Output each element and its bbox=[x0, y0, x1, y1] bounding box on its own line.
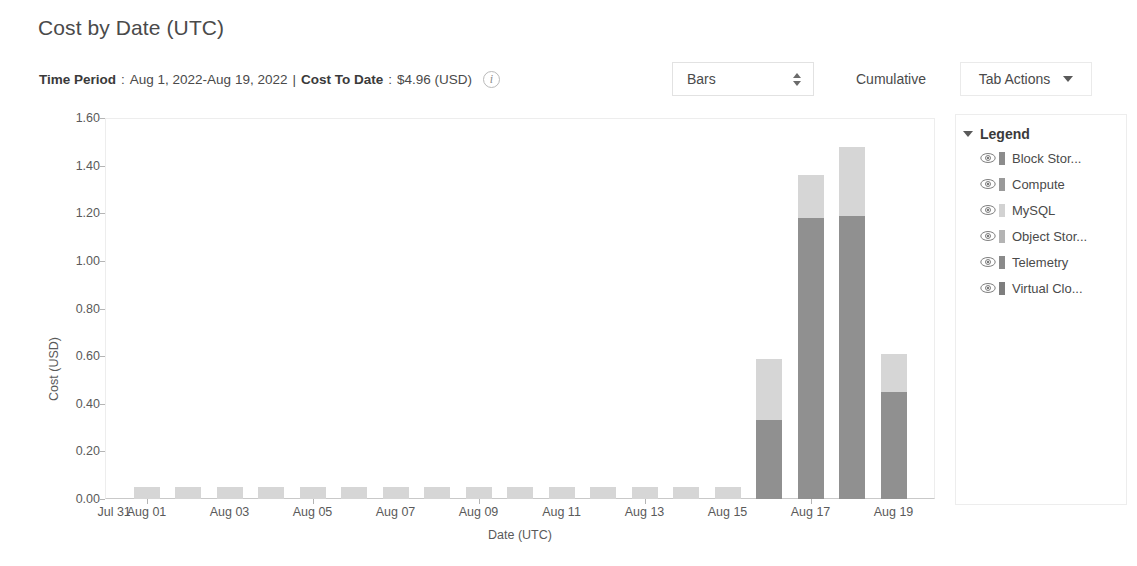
y-tick-mark bbox=[100, 309, 105, 310]
bar-stack[interactable] bbox=[632, 118, 658, 499]
bar-segment[interactable] bbox=[341, 487, 367, 499]
bar-segment[interactable] bbox=[217, 487, 243, 499]
bar-segment[interactable] bbox=[881, 354, 907, 392]
x-tick-mark bbox=[811, 499, 812, 504]
x-tick-label: Aug 01 bbox=[127, 505, 167, 519]
legend-items: Block Stor...ComputeMySQLObject Stor...T… bbox=[956, 145, 1126, 301]
x-tick-label: Aug 15 bbox=[708, 505, 748, 519]
eye-icon[interactable] bbox=[980, 230, 996, 242]
tab-actions-button[interactable]: Tab Actions bbox=[960, 62, 1092, 96]
chart-container: Cost (USD) 0.000.200.400.600.801.001.201… bbox=[0, 104, 950, 566]
bar-stack[interactable] bbox=[258, 118, 284, 499]
eye-icon[interactable] bbox=[980, 152, 996, 164]
cost-to-date-colon: : bbox=[383, 72, 397, 87]
eye-icon[interactable] bbox=[980, 178, 996, 190]
y-tick-label: 0.60 bbox=[60, 349, 100, 363]
legend-item[interactable]: Virtual Clo... bbox=[956, 275, 1126, 301]
spinner-updown-icon[interactable] bbox=[791, 73, 803, 86]
page-title: Cost by Date (UTC) bbox=[38, 16, 224, 40]
bar-segment[interactable] bbox=[839, 147, 865, 216]
bar-segment[interactable] bbox=[881, 392, 907, 499]
legend-color-swatch bbox=[999, 230, 1005, 243]
y-tick-label: 0.40 bbox=[60, 397, 100, 411]
legend-item-label: Telemetry bbox=[1012, 255, 1068, 270]
bar-stack[interactable] bbox=[715, 118, 741, 499]
bar-segment[interactable] bbox=[549, 487, 575, 499]
bar-stack[interactable] bbox=[549, 118, 575, 499]
bar-stack[interactable] bbox=[881, 118, 907, 499]
legend-item-label: Object Stor... bbox=[1012, 229, 1087, 244]
bar-stack[interactable] bbox=[466, 118, 492, 499]
bar-segment[interactable] bbox=[756, 420, 782, 499]
x-tick-label: Aug 03 bbox=[210, 505, 250, 519]
bar-stack[interactable] bbox=[673, 118, 699, 499]
y-tick-label: 1.20 bbox=[60, 206, 100, 220]
x-tick-label: Aug 13 bbox=[625, 505, 665, 519]
bar-segment[interactable] bbox=[756, 359, 782, 421]
chart-type-select[interactable]: Bars bbox=[672, 62, 814, 96]
legend-color-swatch bbox=[999, 256, 1005, 269]
bar-segment[interactable] bbox=[258, 487, 284, 499]
tab-actions-label: Tab Actions bbox=[979, 71, 1051, 87]
y-tick-mark bbox=[100, 118, 105, 119]
bar-stack[interactable] bbox=[175, 118, 201, 499]
cost-to-date-label: Cost To Date bbox=[301, 72, 383, 87]
info-icon[interactable]: i bbox=[483, 71, 500, 88]
bar-stack[interactable] bbox=[756, 118, 782, 499]
legend-item[interactable]: Compute bbox=[956, 171, 1126, 197]
bar-stack[interactable] bbox=[217, 118, 243, 499]
bar-segment[interactable] bbox=[383, 487, 409, 499]
bar-segment[interactable] bbox=[798, 175, 824, 218]
cumulative-toggle[interactable]: Cumulative bbox=[832, 62, 950, 96]
bar-segment[interactable] bbox=[134, 487, 160, 499]
legend-item[interactable]: MySQL bbox=[956, 197, 1126, 223]
bar-stack[interactable] bbox=[590, 118, 616, 499]
eye-icon[interactable] bbox=[980, 204, 996, 216]
eye-icon[interactable] bbox=[980, 256, 996, 268]
bar-segment[interactable] bbox=[466, 487, 492, 499]
time-period-label: Time Period bbox=[39, 72, 116, 87]
y-tick-mark bbox=[100, 356, 105, 357]
x-tick-label: Aug 05 bbox=[293, 505, 333, 519]
x-tick-mark bbox=[147, 499, 148, 504]
y-axis-title: Cost (USD) bbox=[47, 309, 61, 429]
y-tick-mark bbox=[100, 166, 105, 167]
bar-segment[interactable] bbox=[798, 218, 824, 499]
bar-stack[interactable] bbox=[798, 118, 824, 499]
y-tick-mark bbox=[100, 261, 105, 262]
bar-stack[interactable] bbox=[839, 118, 865, 499]
bar-stack[interactable] bbox=[507, 118, 533, 499]
caret-down-icon[interactable] bbox=[963, 131, 973, 137]
x-tick-label: Aug 17 bbox=[791, 505, 831, 519]
y-tick-label: 1.00 bbox=[60, 254, 100, 268]
bar-segment[interactable] bbox=[175, 487, 201, 499]
legend-item[interactable]: Telemetry bbox=[956, 249, 1126, 275]
bar-stack[interactable] bbox=[134, 118, 160, 499]
legend-color-swatch bbox=[999, 152, 1005, 165]
bar-segment[interactable] bbox=[715, 487, 741, 499]
y-tick-mark bbox=[100, 404, 105, 405]
bar-segment[interactable] bbox=[507, 487, 533, 499]
chevron-down-icon bbox=[1063, 76, 1073, 82]
bar-segment[interactable] bbox=[839, 216, 865, 499]
bar-segment[interactable] bbox=[424, 487, 450, 499]
legend-item[interactable]: Block Stor... bbox=[956, 145, 1126, 171]
x-tick-label: Aug 07 bbox=[376, 505, 416, 519]
bar-segment[interactable] bbox=[632, 487, 658, 499]
eye-icon[interactable] bbox=[980, 282, 996, 294]
bar-stack[interactable] bbox=[383, 118, 409, 499]
legend-color-swatch bbox=[999, 282, 1005, 295]
bar-segment[interactable] bbox=[673, 487, 699, 499]
bar-stack[interactable] bbox=[424, 118, 450, 499]
legend-item[interactable]: Object Stor... bbox=[956, 223, 1126, 249]
y-tick-mark bbox=[100, 451, 105, 452]
legend-item-label: Block Stor... bbox=[1012, 151, 1081, 166]
summary-separator: | bbox=[287, 72, 301, 87]
bar-stack[interactable] bbox=[341, 118, 367, 499]
y-tick-label: 0.20 bbox=[60, 444, 100, 458]
bar-stack[interactable] bbox=[300, 118, 326, 499]
bar-segment[interactable] bbox=[590, 487, 616, 499]
legend-title: Legend bbox=[980, 126, 1030, 142]
legend-header[interactable]: Legend bbox=[956, 123, 1126, 145]
bar-segment[interactable] bbox=[300, 487, 326, 499]
